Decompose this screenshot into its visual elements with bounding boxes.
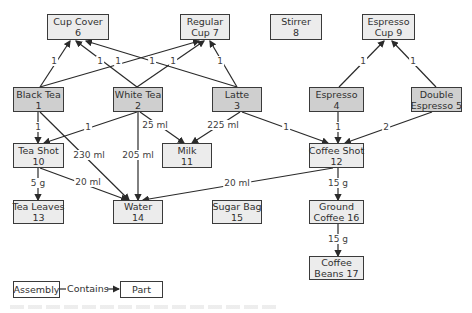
edge-quantity-label: 25 ml: [141, 120, 169, 130]
node-black-tea-1: Black Tea1: [13, 87, 64, 112]
node-label-line1: Double: [420, 89, 454, 100]
node-label-line2: 10: [32, 156, 44, 167]
node-label-line2: Cup 7: [191, 27, 219, 38]
edge-quantity-label: 1: [84, 122, 92, 132]
edge-quantity-label: 1: [334, 122, 342, 132]
edge-quantity-label: 1: [34, 122, 42, 132]
edge-quantity-label: 20 ml: [223, 178, 251, 188]
node-coffee-shot-12: Coffee Shot12: [309, 143, 364, 168]
node-label-line1: Coffee: [321, 257, 352, 268]
node-espresso-4: Espresso4: [309, 87, 364, 112]
edge-quantity-label: 1: [409, 56, 417, 66]
node-label-line1: Black Tea: [16, 89, 61, 100]
node-label-line2: 6: [75, 27, 81, 38]
edges-layer: [0, 0, 472, 313]
node-double-5: DoubleEspresso 5: [411, 87, 462, 112]
edge-quantity-label: 205 ml: [121, 150, 154, 160]
legend-contains-label: Contains: [67, 283, 109, 294]
contains-edge: [76, 41, 137, 87]
legend-assembly-box: Assembly: [13, 281, 60, 298]
node-latte-3: Latte3: [212, 87, 262, 112]
node-label-line2: Coffee 16: [314, 212, 360, 223]
edge-quantity-label: 20 ml: [74, 177, 102, 187]
edge-quantity-label: 1: [114, 56, 122, 66]
legend-part-label: Part: [132, 284, 151, 295]
node-label-line2: 13: [32, 212, 44, 223]
node-label-line2: 12: [330, 156, 342, 167]
node-label-line2: Espresso 5: [411, 100, 462, 111]
node-label-line1: Ground: [319, 201, 354, 212]
node-regular-7: RegularCup 7: [180, 14, 230, 40]
node-label-line1: Coffee Shot: [309, 145, 364, 156]
node-sugar-bag-15: Sugar Bag15: [212, 200, 262, 224]
node-label-line2: 3: [234, 100, 240, 111]
node-tea-shot-10: Tea Shot10: [13, 143, 64, 168]
edge-quantity-label: 1: [359, 56, 367, 66]
edge-quantity-label: 1: [282, 122, 290, 132]
node-label-line1: Cup Cover: [53, 16, 103, 27]
node-label-line1: Espresso: [367, 16, 409, 27]
node-label-line1: White Tea: [115, 89, 162, 100]
node-label-line1: Water: [124, 201, 152, 212]
legend-part-box: Part: [120, 281, 163, 298]
edge-quantity-label: 2: [382, 122, 390, 132]
node-label-line2: Beans 17: [314, 268, 358, 279]
edge-quantity-label: 15 g: [327, 178, 349, 188]
node-coffee-17: CoffeeBeans 17: [309, 256, 364, 280]
node-water-14: Water14: [113, 200, 163, 224]
node-label-line2: 4: [333, 100, 339, 111]
cutoff-caption-line: [10, 305, 280, 309]
node-label-line2: 2: [135, 100, 141, 111]
edge-quantity-label: 1: [50, 56, 58, 66]
edge-quantity-label: 1: [216, 56, 224, 66]
node-espresso-9: EspressoCup 9: [362, 14, 415, 40]
node-label-line1: Stirrer: [281, 16, 311, 27]
node-label-line1: Tea Leaves: [12, 201, 64, 212]
legend-assembly-label: Assembly: [14, 284, 60, 295]
edge-quantity-label: 15 g: [327, 234, 349, 244]
node-label-line2: 1: [35, 100, 41, 111]
node-label-line1: Regular: [187, 16, 223, 27]
node-label-line1: Espresso: [315, 89, 357, 100]
node-milk-11: Milk11: [162, 143, 212, 168]
edge-quantity-label: 5 g: [30, 178, 46, 188]
node-label-line1: Milk: [178, 145, 197, 156]
node-label-line2: 15: [231, 212, 243, 223]
edge-quantity-label: 230 ml: [72, 150, 105, 160]
node-label-line2: 8: [293, 27, 299, 38]
node-label-line1: Sugar Bag: [212, 201, 261, 212]
node-white-tea-2: White Tea2: [113, 87, 163, 112]
node-cup-cover-6: Cup Cover6: [47, 14, 109, 40]
node-tea-leaves-13: Tea Leaves13: [13, 200, 64, 224]
node-ground-16: GroundCoffee 16: [309, 200, 364, 224]
node-stirrer-8: Stirrer8: [270, 14, 322, 40]
edge-quantity-label: 1: [96, 56, 104, 66]
edge-quantity-label: 225 ml: [206, 120, 239, 130]
edge-quantity-label: 1: [148, 56, 156, 66]
node-label-line1: Latte: [225, 89, 249, 100]
node-label-line2: 11: [181, 156, 193, 167]
node-label-line2: 14: [132, 212, 144, 223]
node-label-line2: Cup 9: [375, 27, 403, 38]
node-label-line1: Tea Shot: [18, 145, 58, 156]
edge-quantity-label: 1: [169, 56, 177, 66]
